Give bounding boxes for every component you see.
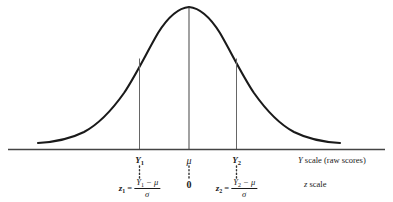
z-formula-y2-variable-base: z <box>216 183 220 193</box>
z-formula-y2: z2 = Y2 − μ σ <box>216 178 257 198</box>
tick-label-y1-subscript: 1 <box>141 159 144 166</box>
tick-label-mu: μ <box>186 156 191 166</box>
z-formula-y2-numerator: Y2 − μ <box>231 178 257 188</box>
z-formula-y2-variable: z2 <box>216 184 223 193</box>
z-formula-y2-variable-subscript: 2 <box>219 188 222 194</box>
tick-label-y1: Y1 <box>135 156 144 165</box>
tick-label-y2-subscript: 2 <box>238 159 241 166</box>
distribution-plot-svg <box>0 0 393 202</box>
normal-distribution-figure: Y1 μ Y2 Y scale (raw scores) z1 = Y1 − μ… <box>0 0 393 202</box>
z-formula-y2-equals: = <box>224 184 229 193</box>
z-formula-y1-denominator: σ <box>143 189 151 199</box>
z-formula-y1-variable: z1 <box>119 184 126 193</box>
z-formula-y1-equals: = <box>127 184 132 193</box>
y-scale-axis-label-text: scale (raw scores) <box>303 155 366 165</box>
z-label-zero: 0 <box>187 180 192 190</box>
z-formula-y1-fraction: Y1 − μ σ <box>134 178 160 198</box>
z-formula-y2-numerator-subscript: 2 <box>238 182 241 188</box>
z-formula-y2-denominator: σ <box>240 189 248 199</box>
tick-label-y1-base: Y <box>135 155 141 165</box>
tick-label-y2: Y2 <box>232 156 241 165</box>
z-formula-y1-numerator: Y1 − μ <box>134 178 160 188</box>
tick-label-y2-base: Y <box>232 155 238 165</box>
z-formula-y1: z1 = Y1 − μ σ <box>119 178 160 198</box>
z-formula-y1-variable-subscript: 1 <box>122 188 125 194</box>
z-formula-y1-numerator-subscript: 1 <box>141 182 144 188</box>
z-formula-y1-numerator-rest: − μ <box>144 177 158 187</box>
z-formula-y1-variable-base: z <box>119 183 123 193</box>
z-scale-axis-label: z scale <box>304 180 326 189</box>
y-scale-axis-label: Y scale (raw scores) <box>298 156 366 165</box>
z-formula-y2-fraction: Y2 − μ σ <box>231 178 257 198</box>
z-formula-y2-numerator-rest: − μ <box>241 177 255 187</box>
z-scale-axis-label-text: scale <box>307 179 326 189</box>
